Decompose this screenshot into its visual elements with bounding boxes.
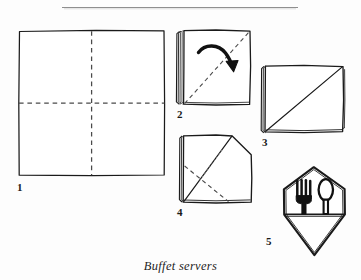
- step-label-3: 3: [262, 137, 268, 148]
- step-label-5: 5: [266, 236, 272, 247]
- step-5-figure: [284, 167, 345, 255]
- step-label-2: 2: [177, 109, 183, 120]
- step-1-figure: [19, 30, 165, 175]
- step-label-1: 1: [17, 182, 23, 193]
- figure-caption: Buffet servers: [0, 259, 361, 274]
- step-label-4: 4: [177, 207, 183, 218]
- step-5-pocket-outline: [284, 167, 345, 255]
- figure-page: 1 2 3 4 5 Buffet servers: [0, 0, 361, 280]
- napkin-folding-diagram: [0, 0, 361, 280]
- step-2-figure: [176, 30, 250, 105]
- step-3-figure: [261, 65, 345, 132]
- step-3-right-layer-edge: [344, 69, 345, 128]
- top-divider-rule: [62, 8, 298, 9]
- step-4-figure: [179, 135, 251, 203]
- step-2-layer-edges: [176, 30, 184, 104]
- step-4-napkin-outline: [183, 135, 252, 203]
